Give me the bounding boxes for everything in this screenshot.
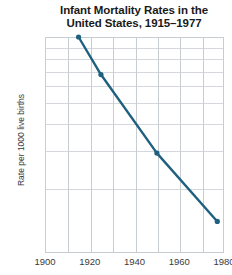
y-gridline bbox=[46, 103, 223, 104]
y-gridline bbox=[46, 124, 223, 125]
chart-title-line-1: Infant Mortality Rates in the bbox=[38, 4, 230, 17]
plot-area bbox=[45, 37, 224, 253]
x-gridline bbox=[136, 38, 137, 252]
x-tick-label: 1980 bbox=[202, 256, 232, 267]
x-gridline bbox=[180, 38, 181, 252]
y-gridline bbox=[46, 59, 223, 60]
x-gridline bbox=[203, 38, 204, 252]
y-gridline bbox=[46, 151, 223, 152]
x-gridline bbox=[68, 38, 69, 252]
x-tick-label: 1900 bbox=[23, 256, 67, 267]
x-gridline bbox=[113, 38, 114, 252]
infant-mortality-chart: Infant Mortality Rates in the United Sta… bbox=[0, 0, 232, 275]
x-gridline bbox=[91, 38, 92, 252]
x-tick-label: 1920 bbox=[68, 256, 112, 267]
y-gridline bbox=[46, 72, 223, 73]
y-gridline bbox=[46, 189, 223, 190]
chart-title-line-2: United States, 1915–1977 bbox=[38, 17, 230, 30]
x-gridline bbox=[158, 38, 159, 252]
x-tick-label: 1960 bbox=[157, 256, 201, 267]
y-gridline bbox=[46, 48, 223, 49]
y-gridline bbox=[46, 86, 223, 87]
x-tick-label: 1940 bbox=[113, 256, 157, 267]
chart-title: Infant Mortality Rates in the United Sta… bbox=[38, 4, 230, 30]
y-axis-title: Rate per 1000 live births bbox=[16, 70, 26, 210]
